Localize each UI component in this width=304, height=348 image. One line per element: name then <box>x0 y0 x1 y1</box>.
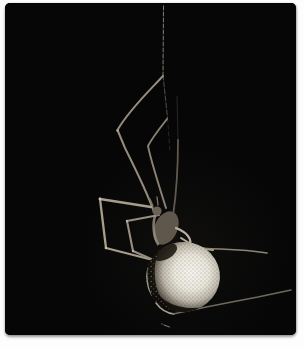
spider-photo <box>5 3 296 335</box>
screenshot-stage <box>0 0 304 348</box>
photo-frame <box>5 3 296 335</box>
